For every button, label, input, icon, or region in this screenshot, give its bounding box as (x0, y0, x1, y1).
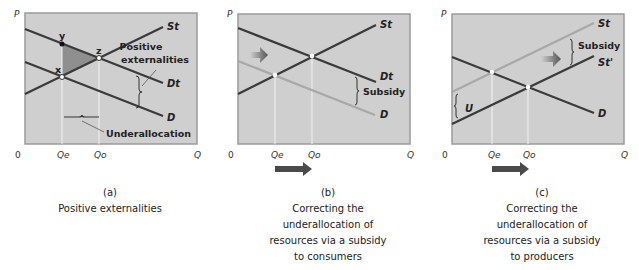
point-y (60, 42, 65, 47)
positive-label: Positive (120, 41, 163, 52)
st-label: St (167, 21, 180, 32)
qe-label: Qe (57, 150, 70, 160)
underallocation-label: Underallocation (106, 128, 191, 139)
origin-label: 0 (442, 150, 448, 160)
caption-line: underallocation of (248, 217, 408, 233)
origin-label: 0 (228, 150, 234, 160)
output-increase-arrow-icon (492, 162, 529, 176)
origin-label: 0 (15, 150, 21, 160)
dt-label: Dt (380, 71, 394, 82)
p-axis-label: P (14, 9, 20, 19)
qo-label: Qo (94, 150, 107, 160)
caption-line: resources via a subsidy (462, 233, 622, 249)
caption-letter: (c) (462, 185, 622, 201)
q-axis-label: Q (194, 150, 201, 160)
caption-line: to producers (462, 249, 622, 265)
equilibrium-point-e (490, 70, 495, 75)
qo-label: Qo (308, 150, 321, 160)
q-axis-label: Q (407, 150, 414, 160)
st-label: St (380, 19, 393, 30)
subsidy-label: Subsidy (578, 40, 621, 51)
x-label: x (55, 64, 61, 75)
st-prime-label: St' (598, 57, 613, 68)
qo-label: Qo (523, 150, 536, 160)
caption-line: Correcting the (462, 201, 622, 217)
caption-line: resources via a subsidy (248, 233, 408, 249)
z-label: z (96, 45, 102, 56)
p-axis-label: P (441, 9, 447, 19)
caption-c: (c) Correcting the underallocation of re… (462, 185, 622, 265)
externalities-label: externalities (121, 54, 189, 65)
subsidy-label: Subsidy (363, 86, 406, 97)
dt-label: Dt (167, 78, 181, 89)
qe-label: Qe (271, 150, 284, 160)
caption-line: underallocation of (462, 217, 622, 233)
q-axis-label: Q (621, 150, 628, 160)
caption-b: (b) Correcting the underallocation of re… (248, 185, 408, 265)
panel-b: Subsidy St Dt D P 0 Qe Qo Q (227, 9, 414, 176)
y-label: y (59, 30, 66, 41)
point-z (97, 56, 102, 61)
equilibrium-point-o (526, 85, 531, 90)
caption-line: to consumers (248, 249, 408, 265)
caption-letter: (a) (30, 185, 190, 201)
d-label: D (167, 112, 175, 123)
st-label: St (598, 18, 611, 29)
caption-a: (a) Positive externalities (30, 185, 190, 217)
u-label: U (465, 103, 473, 114)
point-x (60, 75, 65, 80)
equilibrium-point-e (273, 73, 278, 78)
d-label: D (380, 109, 388, 120)
output-increase-arrow-icon (275, 162, 312, 176)
d-label: D (598, 108, 606, 119)
caption-letter: (b) (248, 185, 408, 201)
qe-label: Qe (488, 150, 501, 160)
p-axis-label: P (227, 9, 233, 19)
equilibrium-point-o (310, 54, 315, 59)
caption-line: Positive externalities (30, 201, 190, 217)
caption-line: Correcting the (248, 201, 408, 217)
panel-c: Subsidy U St St' D P 0 Qe Qo Q (441, 9, 628, 176)
panel-a: Underallocation Positive externalities S… (14, 9, 201, 160)
